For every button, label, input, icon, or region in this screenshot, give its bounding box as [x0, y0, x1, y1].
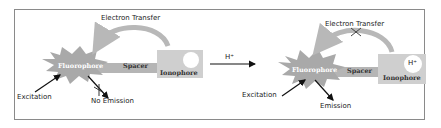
left-excitation-label: Excitation [17, 94, 52, 101]
right-excitation-label: Excitation [242, 92, 277, 99]
left-electron-transfer-label: Electron Transfer [101, 15, 160, 22]
right-ion-bound-label: H⁺ [408, 60, 417, 67]
right-ionophore-label: Ionophore [383, 75, 421, 82]
left-fluorophore-label: Fluorophore [58, 63, 103, 70]
right-emission-label: Emission [320, 103, 351, 110]
right-electron-transfer-arc [322, 30, 392, 52]
right-fluorophore-label: Fluorophore [292, 67, 337, 74]
left-emission-arrow [88, 76, 108, 98]
left-electron-transfer-arc [100, 27, 168, 46]
left-excitation-arrow [35, 75, 60, 92]
left-ion-site [183, 52, 199, 68]
left-no-emission-label: No Emission [91, 98, 134, 105]
left-spacer-label: Spacer [123, 63, 148, 70]
right-spacer-label: Spacer [347, 68, 372, 75]
transition-h-plus-label: H⁺ [225, 54, 234, 61]
left-blocked-emission-icon [94, 84, 104, 96]
right-electron-transfer-label: Electron Transfer [325, 21, 384, 28]
left-ionophore-label: Ionophore [160, 70, 198, 77]
